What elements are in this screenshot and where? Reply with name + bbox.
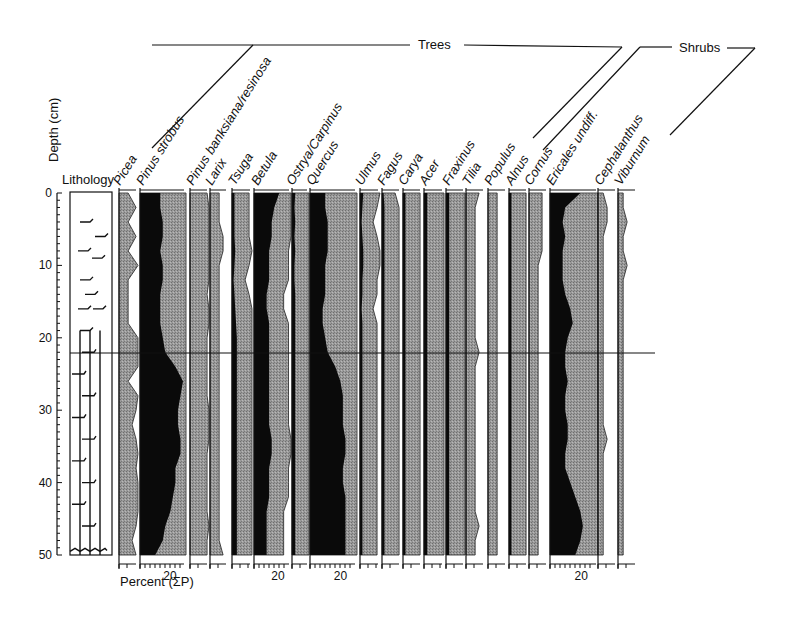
taxon-column-betula: 20Betula xyxy=(248,148,291,583)
taxon-column-quercus: 20Quercus xyxy=(303,138,357,583)
lithology-label: Lithology xyxy=(62,172,115,187)
lithology-column: Lithology xyxy=(62,172,115,555)
pollen-diagram: Trees Shrubs Depth (cm) 01020304050 Lith… xyxy=(0,0,801,618)
taxon-column-pinus-strobus: 20Pinus strobus xyxy=(133,112,188,583)
taxon-column-carya: Carya xyxy=(395,150,426,569)
depth-tick-label: 40 xyxy=(39,476,53,490)
x-tick-label: 20 xyxy=(271,569,285,583)
taxon-column-tsuga: Tsuga xyxy=(225,150,256,569)
taxon-column-fagus: Fagus xyxy=(374,149,406,569)
depth-tick-label: 50 xyxy=(39,548,53,562)
taxon-column-viburnum: Viburnum xyxy=(611,133,653,569)
group-label-shrubs: Shrubs xyxy=(679,40,721,55)
taxon-label: Betula xyxy=(248,148,280,187)
depth-tick-label: 20 xyxy=(39,331,53,345)
taxon-column-picea: Picea xyxy=(110,152,140,569)
depth-tick-label: 30 xyxy=(39,403,53,417)
depth-tick-label: 0 xyxy=(45,186,52,200)
taxa-columns: Picea20Pinus strobusPinus banksiana/resi… xyxy=(110,54,653,583)
depth-axis: Depth (cm) 01020304050 xyxy=(39,98,62,562)
taxon-column-alnus: Alnus xyxy=(501,152,532,569)
x-tick-label: 20 xyxy=(334,569,348,583)
depth-axis-title: Depth (cm) xyxy=(46,98,61,162)
depth-tick-label: 10 xyxy=(39,258,53,272)
group-label-trees: Trees xyxy=(418,37,451,52)
x-tick-label: 20 xyxy=(575,569,589,583)
x-axis-title: Percent (ΣP) xyxy=(120,574,194,589)
taxon-label: Pinus strobus xyxy=(133,112,188,187)
